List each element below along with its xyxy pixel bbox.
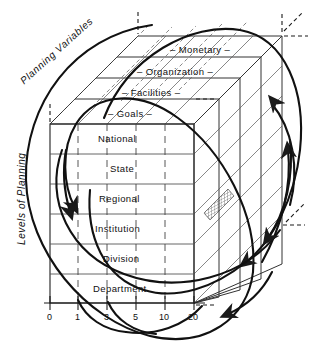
level-label-regional: Regional xyxy=(99,193,140,204)
axis-label-levels-of-planning: Levels of Planning xyxy=(16,152,27,245)
depth-layer-label-organization: – Organization – xyxy=(137,66,213,77)
orbit-curve-under-axis xyxy=(78,300,202,334)
depth-layer-label-goals: – Goals – xyxy=(108,108,152,119)
level-label-department: Department xyxy=(93,283,147,294)
level-label-national: National xyxy=(98,133,136,144)
x-tick-label-10: 10 xyxy=(159,312,169,322)
figure-canvas: Planning Variables Levels of Planning – … xyxy=(0,0,320,347)
x-tick-label-20: 20 xyxy=(188,312,198,322)
level-label-institution: Institution xyxy=(95,223,140,234)
orbit-curve-bottom xyxy=(56,102,298,282)
depth-layer-label-monetary: – Monetary – xyxy=(170,44,230,55)
construction-dashes xyxy=(50,12,308,305)
x-tick-label-1: 1 xyxy=(75,312,80,322)
x-tick-label-0: 0 xyxy=(47,312,52,322)
depth-layer-label-facilities: – Facilities – xyxy=(122,87,180,98)
level-label-division: Division xyxy=(103,253,139,264)
front-column-lines xyxy=(78,124,165,303)
x-axis xyxy=(44,296,205,310)
x-tick-label-5: 5 xyxy=(133,312,138,322)
cube-front-face xyxy=(50,124,194,303)
x-tick-label-3: 3 xyxy=(104,312,109,322)
level-label-state: State xyxy=(110,163,134,174)
